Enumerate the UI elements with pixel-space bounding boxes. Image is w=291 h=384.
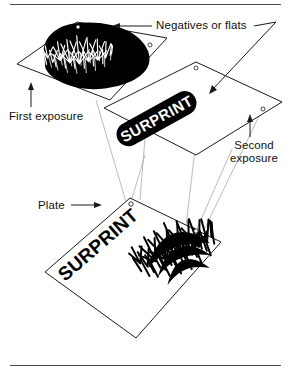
printing-plate: SURPRINT [45,198,227,338]
label-first-exposure: First exposure [9,110,83,123]
label-second-exposure-line1: Second [234,139,274,151]
registration-hole [76,25,80,29]
label-plate: Plate [38,199,65,212]
arrowhead-first-exposure [28,82,34,90]
arrowhead-plate [94,202,102,208]
registration-hole [148,43,152,47]
label-negatives-or-flats: Negatives or flats [156,19,247,32]
figure-container: SURPRINT SURPRINT [0,0,291,384]
registration-hole [129,202,133,206]
registration-hole [194,66,198,70]
diagram-artwork: SURPRINT SURPRINT [0,0,291,384]
label-second-exposure: Second exposure [224,139,284,165]
leader-negatives-right-b [213,22,276,89]
registration-hole [194,229,198,233]
registration-hole [261,107,265,111]
label-second-exposure-line2: exposure [230,152,278,164]
